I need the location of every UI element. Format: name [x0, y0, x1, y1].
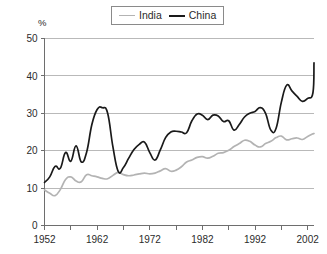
series-line-china	[45, 63, 315, 183]
x-tick-label: 1952	[33, 234, 56, 245]
y-tick-label: 30	[26, 108, 38, 119]
y-tick-labels-group: 01020304050	[26, 33, 38, 231]
y-tick-label: 40	[26, 71, 38, 82]
y-tick-label: 0	[32, 220, 38, 231]
series-line-india	[45, 133, 315, 195]
chart-figure: India China % 01020304050 19521962197219…	[0, 0, 327, 254]
x-tick-label: 1992	[244, 234, 267, 245]
y-tick-label: 10	[26, 183, 38, 194]
x-tick-label: 1962	[86, 234, 109, 245]
x-tick-label: 2002	[297, 234, 320, 245]
data-series-group	[45, 63, 315, 196]
y-tick-label: 20	[26, 145, 38, 156]
x-tick-label: 1972	[139, 234, 162, 245]
gridlines-group	[45, 39, 315, 189]
x-tick-label: 1982	[191, 234, 214, 245]
x-tick-labels-group: 195219621972198219922002	[33, 234, 319, 245]
tickmarks-group	[41, 39, 308, 230]
y-tick-label: 50	[26, 33, 38, 44]
chart-plot-area: 01020304050 195219621972198219922002	[0, 0, 327, 254]
